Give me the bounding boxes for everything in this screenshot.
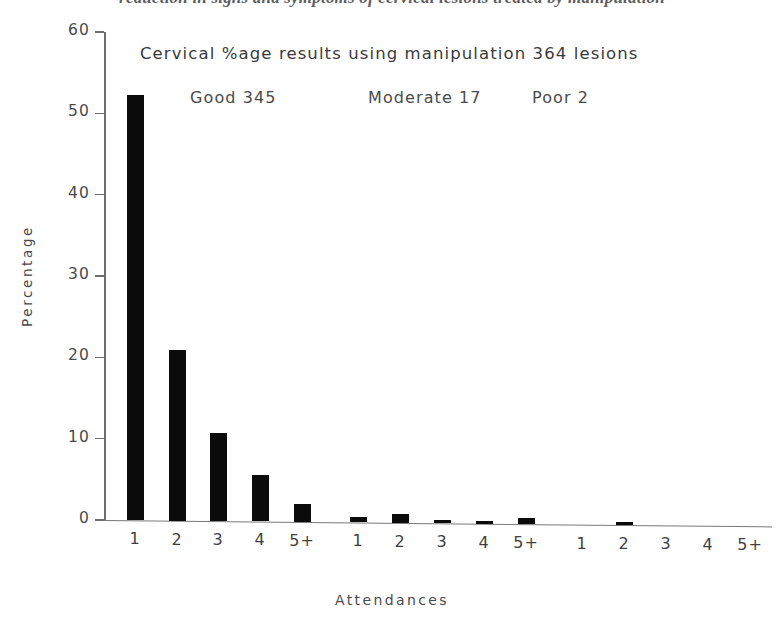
- bar: [392, 514, 409, 523]
- x-tick-label: 4: [464, 533, 504, 552]
- bar: [210, 433, 227, 521]
- x-axis-title: Attendances: [0, 592, 784, 608]
- bar: [127, 95, 144, 520]
- bar: [476, 521, 493, 523]
- x-tick-label: 1: [338, 531, 378, 550]
- bar: [350, 517, 367, 523]
- annotation-group-moderate: Moderate 17: [368, 88, 482, 107]
- x-tick-label: 3: [198, 530, 238, 549]
- x-tick-label: 2: [604, 534, 644, 553]
- x-tick-label: 3: [422, 532, 462, 551]
- x-tick-label: 4: [240, 530, 280, 549]
- bar: [169, 350, 186, 521]
- x-tick-label: 2: [157, 530, 197, 549]
- bar: [294, 504, 311, 522]
- x-tick-label: 1: [562, 534, 602, 553]
- x-tick-label: 2: [380, 532, 420, 551]
- bar: [252, 475, 269, 521]
- x-tick-label: 4: [688, 535, 728, 554]
- x-tick-label: 5+: [282, 531, 322, 550]
- annotation-heading: Cervical %age results using manipulation…: [140, 44, 639, 63]
- x-tick-label: 3: [646, 534, 686, 553]
- chart-plot-area: 0102030405060 Percentage 12345+12345+123…: [0, 0, 784, 630]
- x-tick-label: 5+: [506, 533, 546, 552]
- bar: [518, 518, 535, 525]
- bar: [434, 520, 451, 523]
- annotation-group-poor: Poor 2: [532, 88, 589, 107]
- x-tick-label: 5+: [730, 535, 770, 554]
- x-tick-label: 1: [115, 529, 155, 548]
- annotation-group-good: Good 345: [190, 88, 277, 107]
- bar: [616, 522, 633, 525]
